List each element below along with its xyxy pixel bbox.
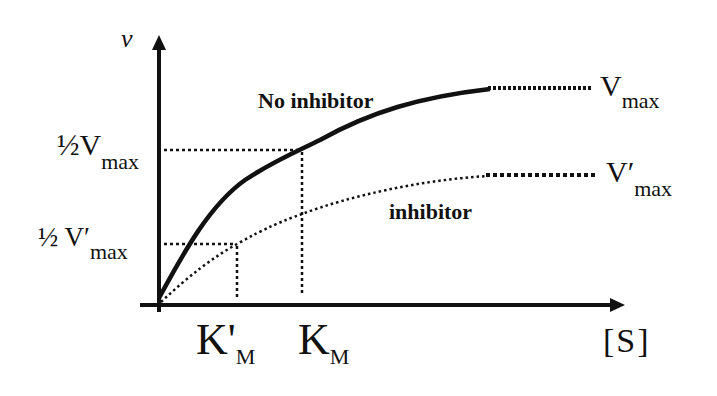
y-axis-label: v	[121, 26, 133, 52]
vmax-prime-label: V′max	[606, 157, 672, 187]
no-inhibitor-curve	[159, 89, 490, 298]
inhibitor-curve	[161, 176, 488, 302]
half-vmax-prime-label: ½ V′max	[38, 224, 128, 251]
y-axis-arrow-icon	[152, 35, 166, 50]
km-label: KM	[298, 318, 349, 362]
km-prime-label: K'M	[196, 318, 255, 362]
inhibitor-label: inhibitor	[389, 201, 472, 223]
x-axis-label: [S]	[603, 324, 651, 358]
vmax-label: Vmax	[600, 71, 660, 101]
half-vmax-label: ½Vmax	[57, 130, 139, 160]
x-axis-arrow-icon	[610, 298, 625, 312]
no-inhibitor-label: No inhibitor	[258, 90, 374, 112]
